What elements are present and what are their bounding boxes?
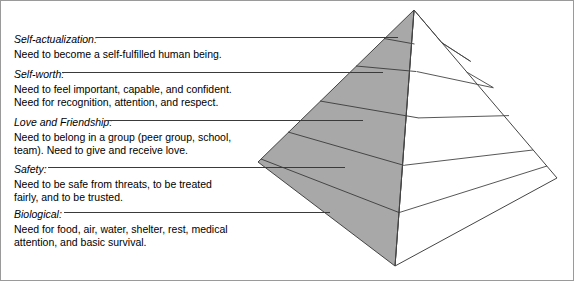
need-description: Need to be safe from threats, to be trea…: [14, 178, 212, 204]
need-description: Need to belong in a group (peer group, s…: [14, 131, 231, 157]
pyramid-figure: Self-actualization: Need to become a sel…: [0, 0, 575, 282]
leader-line-self-actualization: [96, 37, 398, 38]
leader-line-safety: [48, 167, 345, 168]
needs-label-layer: Self-actualization: Need to become a sel…: [0, 0, 575, 282]
need-title: Biological:: [14, 208, 62, 221]
need-description: Need to feel important, capable, and con…: [14, 83, 232, 109]
need-block-love-and-friendship: Love and Friendship: Need to belong in a…: [14, 112, 231, 157]
need-title: Safety:: [14, 163, 47, 176]
leader-line-love-and-friendship: [106, 120, 363, 121]
need-block-self-worth: Self-worth: Need to feel important, capa…: [14, 64, 232, 109]
need-description: Need to become a self-fulfilled human be…: [14, 48, 222, 61]
need-block-safety: Safety: Need to be safe from threats, to…: [14, 159, 212, 204]
leader-line-self-worth: [62, 72, 383, 73]
leader-line-biological: [64, 212, 330, 213]
need-description: Need for food, air, water, shelter, rest…: [14, 223, 228, 249]
need-block-self-actualization: Self-actualization: Need to become a sel…: [14, 29, 222, 61]
need-title: Self-worth:: [14, 68, 64, 81]
need-title: Love and Friendship:: [14, 116, 112, 129]
need-title: Self-actualization:: [14, 33, 97, 46]
need-block-biological: Biological: Need for food, air, water, s…: [14, 204, 228, 249]
